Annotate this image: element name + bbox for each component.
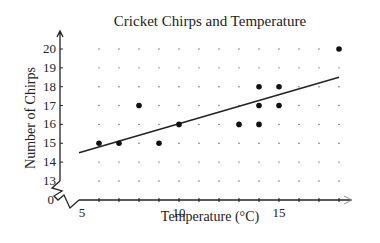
- data-point: [156, 140, 162, 146]
- x-tick-label: 5: [79, 205, 86, 220]
- data-point: [256, 122, 262, 128]
- y-tick-label: 15: [43, 135, 56, 150]
- x-tick-label: 10: [173, 205, 186, 220]
- data-point: [256, 84, 262, 90]
- y-tick-label: 16: [43, 116, 57, 131]
- axes: [52, 31, 352, 208]
- chart-title: Cricket Chirps and Temperature: [114, 13, 307, 29]
- y-tick-label: 13: [43, 173, 56, 188]
- grid-dots: [98, 48, 339, 181]
- y-tick-label: 18: [43, 79, 56, 94]
- y-tick-label: 17: [43, 98, 57, 113]
- data-point: [276, 84, 282, 90]
- data-points: [96, 46, 342, 146]
- data-point: [256, 103, 262, 109]
- y-axis-label: Number of Chirps: [23, 67, 38, 169]
- data-point: [96, 140, 102, 146]
- data-point: [236, 122, 242, 128]
- y-tick-label: 19: [43, 60, 56, 75]
- data-point: [176, 122, 182, 128]
- y-tick-label: 20: [43, 41, 56, 56]
- data-point: [276, 103, 282, 109]
- scatter-chart: Cricket Chirps and Temperature Number of…: [0, 0, 380, 243]
- data-point: [336, 46, 342, 52]
- x-tick-label: 15: [273, 205, 286, 220]
- data-point: [136, 103, 142, 109]
- tick-labels: 0131415161718192051015: [43, 41, 286, 220]
- y-tick-label: 14: [43, 154, 57, 169]
- y-tick-label: 0: [48, 192, 55, 207]
- data-point: [116, 140, 122, 146]
